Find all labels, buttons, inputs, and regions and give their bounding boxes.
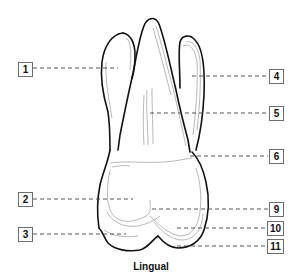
- label-6: 6: [269, 149, 284, 164]
- leader-lines: [33, 68, 268, 246]
- label-1: 1: [18, 62, 33, 77]
- label-10: 10: [267, 221, 284, 236]
- tooth-diagram: [0, 0, 302, 278]
- label-5: 5: [269, 106, 284, 121]
- tooth-inner-lines-icon: [104, 26, 203, 240]
- label-4: 4: [269, 69, 284, 84]
- label-9: 9: [269, 202, 284, 217]
- figure-caption: Lingual: [0, 261, 302, 272]
- label-2: 2: [18, 192, 33, 207]
- label-11: 11: [267, 239, 284, 254]
- label-3: 3: [18, 227, 33, 242]
